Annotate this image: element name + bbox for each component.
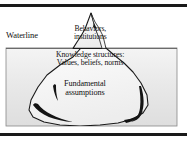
layer-label-behaviors: Behaviors, institutions xyxy=(74,25,107,41)
layer-label-knowledge: Knowledge structures: Values, beliefs, n… xyxy=(56,51,124,67)
layer-label-line: assumptions xyxy=(64,89,106,98)
layer-label-line: Values, beliefs, norms xyxy=(56,59,124,67)
layer-label-line: institutions xyxy=(74,33,107,41)
waterline-label: Waterline xyxy=(6,31,38,40)
bottom-rule xyxy=(0,133,187,136)
layer-label-fundamental: Fundamental assumptions xyxy=(64,80,106,97)
iceberg-figure: Waterline Behaviors, institutions Knowle… xyxy=(0,0,187,141)
